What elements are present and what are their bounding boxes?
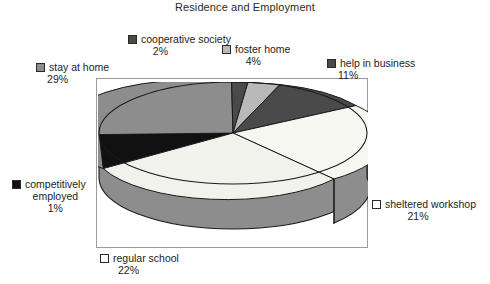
- label-help-in-business-pct: 11%: [281, 69, 415, 81]
- pie-top-face: [98, 82, 368, 200]
- label-sheltered-workshop-pct: 21%: [360, 210, 476, 222]
- label-sheltered-workshop-text: sheltered workshop: [385, 198, 476, 210]
- label-regular-school: regular school 22%: [100, 252, 179, 276]
- label-foster-home-text: foster home: [235, 43, 290, 55]
- swatch-regular-school-icon: [100, 254, 109, 263]
- pie-chart-figure: Residence and Employment: [0, 0, 490, 284]
- pie-svg: [98, 82, 368, 242]
- label-stay-at-home-text: stay at home: [49, 61, 109, 73]
- label-cooperative-society-pct: 2%: [90, 45, 231, 57]
- label-competitively-employed-pct: 1%: [25, 202, 86, 214]
- swatch-sheltered-workshop-icon: [372, 200, 381, 209]
- swatch-stay-at-home-icon: [36, 63, 45, 72]
- label-sheltered-workshop: sheltered workshop 21%: [372, 198, 476, 222]
- label-help-in-business-text: help in business: [340, 57, 415, 69]
- swatch-competitively-employed-icon: [12, 180, 21, 189]
- swatch-foster-home-icon: [222, 45, 231, 54]
- label-help-in-business: help in business 11%: [327, 57, 415, 81]
- swatch-help-in-business-icon: [327, 59, 336, 68]
- swatch-cooperative-society-icon: [128, 35, 137, 44]
- label-stay-at-home-pct: 29%: [6, 73, 109, 85]
- label-stay-at-home: stay at home 29%: [36, 61, 109, 85]
- label-regular-school-text: regular school: [113, 252, 179, 264]
- label-competitively-employed-line1: competitively: [25, 178, 86, 190]
- pie-3d-graphic: [98, 82, 368, 242]
- label-cooperative-society-text: cooperative society: [141, 33, 231, 45]
- label-foster-home-pct: 4%: [216, 55, 290, 67]
- label-foster-home: foster home 4%: [222, 43, 290, 67]
- label-regular-school-pct: 22%: [78, 264, 179, 276]
- chart-title: Residence and Employment: [0, 1, 490, 13]
- label-cooperative-society: cooperative society 2%: [128, 33, 231, 57]
- label-competitively-employed-line2: employed: [25, 190, 86, 202]
- label-competitively-employed: competitively employed 1%: [12, 178, 86, 214]
